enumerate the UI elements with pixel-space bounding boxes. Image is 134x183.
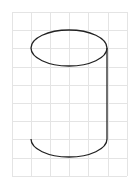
grid-paper bbox=[12, 12, 128, 177]
diagram-canvas bbox=[0, 0, 134, 183]
cylinder-diagram bbox=[0, 0, 134, 183]
